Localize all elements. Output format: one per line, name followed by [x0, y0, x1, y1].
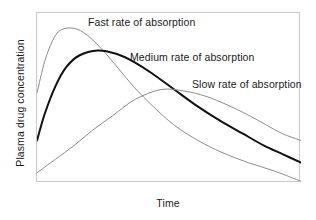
curves-svg: [37, 13, 301, 183]
curve-slow: [37, 89, 301, 173]
curve-label-medium: Medium rate of absorption: [130, 51, 254, 63]
x-axis-title: Time: [36, 197, 300, 209]
plot-area: [36, 12, 300, 182]
pharmacokinetics-absorption-chart: Plasma drug concentration Fast rate of a…: [0, 0, 316, 220]
curve-label-fast: Fast rate of absorption: [88, 16, 195, 28]
curve-medium: [37, 50, 301, 162]
curve-label-slow: Slow rate of absorption: [192, 78, 302, 90]
y-axis-title: Plasma drug concentration: [14, 3, 26, 203]
